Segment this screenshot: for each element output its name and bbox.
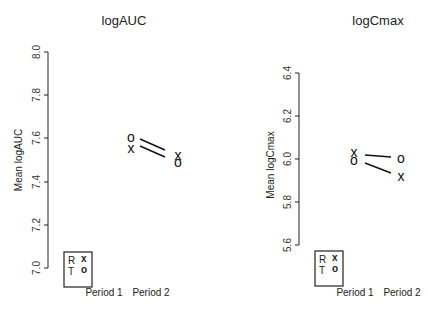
marker-o-period2: o [397, 150, 405, 166]
y-tick-labels: 5.6 5.8 6.0 6.2 6.4 [282, 66, 293, 252]
legend-label-t: T [319, 265, 325, 276]
y-tick-labels: 7.0 7.2 7.4 7.6 7.8 8.0 [31, 45, 42, 275]
x-tick-label-period1: Period 1 [336, 287, 374, 298]
y-axis-ticks [295, 73, 299, 245]
marker-x-period2: x [398, 168, 405, 184]
y-axis-label: Mean logCmax [265, 131, 276, 198]
legend-label-t: T [68, 266, 74, 277]
line-series-r [365, 163, 391, 173]
chart-canvas: logAUC 7.0 7.2 7.4 7.6 7.8 8.0 Mean logA… [0, 0, 428, 312]
y-tick-label: 7.4 [31, 175, 42, 189]
legend-symbol-x: x [332, 252, 338, 263]
panel-logcmax: logCmax 5.6 5.8 6.0 6.2 6.4 Mean logCmax… [265, 13, 421, 298]
y-tick-label: 5.8 [282, 195, 293, 209]
y-tick-label: 6.4 [282, 66, 293, 80]
legend-symbol-o: o [332, 263, 338, 274]
chart-title: logAUC [102, 13, 147, 28]
legend-symbol-o: o [81, 264, 87, 275]
y-tick-label: 7.6 [31, 131, 42, 145]
panel-logauc: logAUC 7.0 7.2 7.4 7.6 7.8 8.0 Mean logA… [13, 13, 182, 298]
line-series-t [365, 155, 391, 157]
y-tick-label: 5.6 [282, 238, 293, 252]
x-tick-label-period1: Period 1 [85, 287, 123, 298]
y-tick-label: 7.8 [31, 88, 42, 102]
x-tick-label-period2: Period 2 [383, 287, 421, 298]
marker-o-period2: o [174, 154, 182, 170]
y-tick-label: 6.2 [282, 109, 293, 123]
marker-x-period1: x [128, 140, 135, 156]
x-tick-label-period2: Period 2 [132, 287, 170, 298]
chart-title: logCmax [352, 13, 404, 28]
legend-label-r: R [319, 254, 326, 265]
legend-symbol-x: x [81, 253, 87, 264]
y-tick-label: 7.0 [31, 261, 42, 275]
marker-o-period1: o [350, 152, 358, 168]
y-tick-label: 7.2 [31, 218, 42, 232]
y-tick-label: 6.0 [282, 152, 293, 166]
y-tick-label: 8.0 [31, 45, 42, 59]
legend-label-r: R [68, 255, 75, 266]
y-axis-label: Mean logAUC [13, 129, 24, 191]
y-axis-ticks [44, 52, 48, 268]
